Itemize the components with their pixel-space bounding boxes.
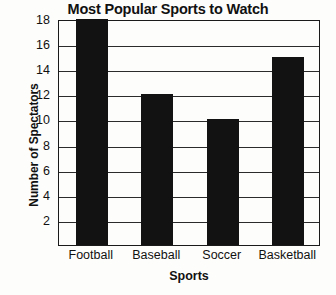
chart-title: Most Popular Sports to Watch	[0, 1, 336, 17]
y-tick-label: 6	[10, 164, 50, 178]
y-tick-label: 10	[10, 113, 50, 127]
bar-football	[76, 19, 108, 245]
y-tick-label: 4	[10, 189, 50, 203]
y-tick-label: 14	[10, 63, 50, 77]
bar-basketball	[272, 57, 304, 245]
x-tick-label-basketball: Basketball	[242, 248, 332, 262]
y-tick-label: 2	[10, 214, 50, 228]
bar-baseball	[141, 94, 173, 245]
bar-chart: Most Popular Sports to Watch Number of S…	[0, 0, 336, 295]
plot-area	[58, 20, 320, 246]
y-tick-label: 16	[10, 38, 50, 52]
y-tick-label: 18	[10, 13, 50, 27]
y-tick-label: 12	[10, 88, 50, 102]
y-tick-label: 8	[10, 139, 50, 153]
x-axis-title: Sports	[58, 269, 320, 283]
bar-soccer	[207, 119, 239, 245]
